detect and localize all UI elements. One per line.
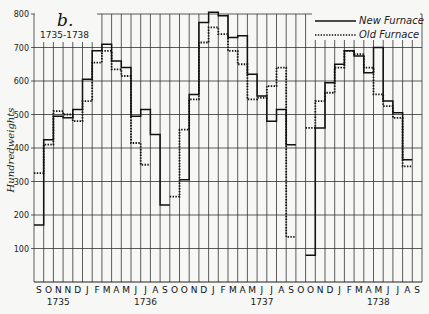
x-tick-label: O: [45, 285, 52, 295]
x-tick-label: J: [85, 285, 89, 295]
chart-title: b.: [57, 10, 73, 30]
x-tick-label: D: [74, 285, 81, 295]
x-tick-label: J: [386, 285, 390, 295]
legend-new-furnace: New Furnace: [359, 15, 424, 26]
x-tick-label: A: [404, 285, 411, 295]
y-axis-ticks: 100200300400500600700800: [14, 10, 29, 254]
y-tick-label: 300: [14, 178, 29, 187]
x-axis-month-labels: SONNDJFMAMJJASOONDJFMAMJJASOONDJFMAMJJAS: [36, 285, 420, 295]
y-tick-label: 800: [14, 10, 29, 19]
x-tick-label: S: [288, 285, 294, 295]
year-label: 1738: [367, 297, 390, 307]
x-tick-label: N: [55, 285, 62, 295]
x-tick-label: S: [414, 285, 420, 295]
chart-subtitle: 1735-1738: [40, 30, 89, 40]
x-tick-label: M: [248, 285, 256, 295]
y-tick-label: 200: [14, 211, 29, 220]
x-tick-label: J: [211, 285, 215, 295]
x-tick-label: D: [326, 285, 333, 295]
x-tick-label: J: [395, 285, 399, 295]
x-tick-label: J: [269, 285, 273, 295]
x-tick-label: O: [181, 285, 188, 295]
x-tick-label: J: [337, 285, 341, 295]
old-furnace-series: [34, 27, 412, 236]
x-tick-label: M: [355, 285, 363, 295]
x-tick-label: A: [239, 285, 246, 295]
x-tick-label: D: [200, 285, 207, 295]
x-tick-label: N: [191, 285, 198, 295]
x-tick-label: F: [94, 285, 99, 295]
furnace-output-chart: 100200300400500600700800 SONNDJFMAMJJASO…: [0, 0, 429, 314]
old-furnace-line: [34, 27, 412, 236]
x-axis-year-labels: 1735173617371738: [47, 297, 390, 307]
x-tick-label: O: [171, 285, 178, 295]
x-tick-label: S: [162, 285, 168, 295]
year-label: 1737: [250, 297, 273, 307]
x-tick-label: M: [122, 285, 130, 295]
x-tick-label: A: [113, 285, 120, 295]
x-tick-label: F: [347, 285, 352, 295]
x-tick-label: N: [65, 285, 72, 295]
year-label: 1736: [134, 297, 157, 307]
y-tick-label: 400: [14, 144, 29, 153]
x-tick-label: M: [374, 285, 382, 295]
x-tick-label: F: [221, 285, 226, 295]
x-tick-label: A: [278, 285, 285, 295]
legend-old-furnace: Old Furnace: [359, 29, 419, 40]
y-axis-label: Hundredweights: [5, 108, 16, 194]
x-tick-label: A: [366, 285, 373, 295]
x-tick-label: M: [229, 285, 237, 295]
x-tick-label: O: [307, 285, 314, 295]
y-tick-label: 600: [14, 77, 29, 86]
x-tick-label: J: [260, 285, 264, 295]
x-tick-label: N: [317, 285, 324, 295]
x-tick-label: J: [134, 285, 138, 295]
x-tick-label: J: [143, 285, 147, 295]
y-tick-label: 500: [14, 111, 29, 120]
year-label: 1735: [47, 297, 70, 307]
y-tick-label: 700: [14, 44, 29, 53]
x-tick-label: S: [36, 285, 42, 295]
new-furnace-series: [34, 12, 412, 255]
x-tick-label: O: [297, 285, 304, 295]
y-tick-label: 100: [14, 245, 29, 254]
x-tick-label: A: [152, 285, 159, 295]
new-furnace-line: [34, 12, 412, 255]
x-tick-label: M: [103, 285, 111, 295]
